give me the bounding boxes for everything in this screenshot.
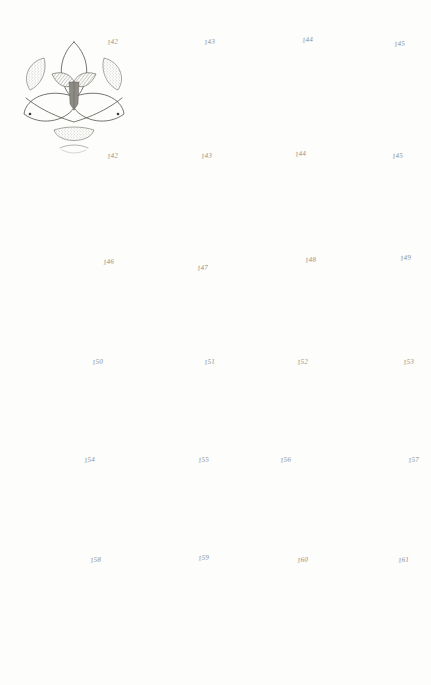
figure-number-146: 146 [103, 258, 115, 267]
figure-number-156: 156 [280, 456, 292, 465]
figure-number-153: 153 [403, 358, 415, 367]
figure-number-148: 148 [305, 256, 317, 265]
figure-142 [24, 42, 124, 153]
figure-number-149: 149 [400, 254, 412, 263]
figure-number-143: 143 [204, 38, 216, 47]
figure-number-143b: 143 [201, 152, 213, 161]
figure-number-160: 160 [297, 556, 309, 565]
figure-number-144: 144 [302, 36, 314, 45]
figure-number-145: 145 [394, 40, 406, 49]
figure-number-151: 151 [204, 358, 216, 367]
figure-number-154: 154 [84, 456, 96, 465]
illustration-plate: 142 143 144 145 142 143 144 145 146 147 … [0, 0, 431, 685]
figure-number-159: 159 [198, 554, 210, 563]
figure-number-142b: 142 [107, 152, 119, 161]
figure-number-147: 147 [197, 264, 209, 273]
figure-number-158: 158 [90, 556, 102, 565]
figure-number-152: 152 [297, 358, 309, 367]
figure-number-144b: 144 [295, 150, 307, 159]
plate-canvas [0, 0, 431, 685]
figure-number-145b: 145 [392, 152, 404, 161]
figure-number-150: 150 [92, 358, 104, 367]
figure-number-155: 155 [198, 456, 210, 465]
figure-number-142: 142 [107, 38, 119, 47]
figure-number-161: 161 [398, 556, 410, 565]
figure-number-157: 157 [408, 456, 420, 465]
